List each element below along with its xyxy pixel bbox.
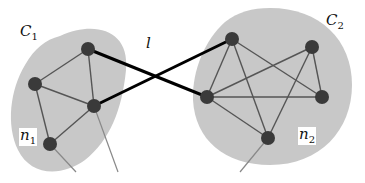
node-d	[43, 137, 57, 151]
node-c	[87, 99, 101, 113]
graph-svg	[0, 0, 365, 183]
node-h	[315, 90, 329, 104]
node-b	[28, 77, 42, 91]
community-label-c1: C1	[20, 24, 38, 42]
node-label-n1: n1	[19, 128, 37, 146]
node-label-n2: n2	[298, 127, 316, 145]
node-f	[305, 40, 319, 54]
node-e	[225, 32, 239, 46]
link-label-l: l	[146, 36, 151, 51]
node-a	[81, 42, 95, 56]
community-label-c2: C2	[326, 13, 344, 31]
node-g	[200, 90, 214, 104]
network-diagram: C1 C2 l n1 n2	[0, 0, 365, 183]
node-i	[261, 131, 275, 145]
